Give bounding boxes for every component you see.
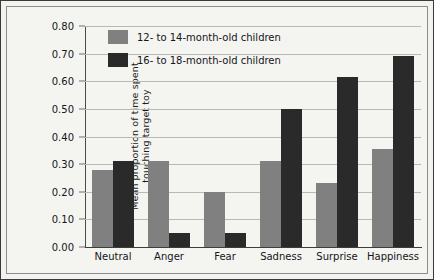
x-axis-tick-label-neutral: Neutral (95, 251, 132, 262)
bar-fear-series-0 (204, 192, 225, 247)
y-axis-tick-label: 0.50 (28, 103, 74, 114)
y-axis-tick-mark (79, 26, 85, 27)
bar-happiness-series-0 (372, 149, 393, 247)
bar-group (309, 26, 365, 247)
y-axis-tick-mark (79, 247, 85, 248)
bar-surprise-series-0 (316, 183, 337, 247)
y-axis-tick-label: 0.10 (28, 214, 74, 225)
x-axis-tick-label-surprise: Surprise (316, 251, 357, 262)
y-axis-tick-mark (79, 164, 85, 165)
legend-swatch-icon-series-0 (108, 30, 128, 44)
y-axis-tick-label: 0.30 (28, 159, 74, 170)
chart-figure: Mean proportion of time spent touching t… (0, 0, 434, 280)
y-axis-tick-mark (79, 191, 85, 192)
y-axis-tick-label: 0.40 (28, 131, 74, 142)
bar-happiness-series-1 (393, 56, 414, 247)
legend-label-series-0: 12- to 14-month-old children (137, 32, 281, 43)
bar-neutral-series-1 (113, 161, 134, 247)
bar-group (365, 26, 421, 247)
legend-label-series-1: 16- to 18-month-old children (137, 55, 281, 66)
bar-sadness-series-0 (260, 161, 281, 247)
y-axis-tick-mark (79, 136, 85, 137)
y-axis-tick-label: 0.00 (28, 242, 74, 253)
y-axis-tick-label: 0.60 (28, 76, 74, 87)
y-axis-tick-label: 0.80 (28, 21, 74, 32)
bar-surprise-series-1 (337, 77, 358, 247)
legend-swatch-icon-series-1 (108, 53, 128, 67)
y-axis-tick-label: 0.70 (28, 48, 74, 59)
chart-legend: 12- to 14-month-old children 16- to 18-m… (108, 30, 281, 76)
x-axis-tick-label-sadness: Sadness (260, 251, 302, 262)
bar-anger-series-0 (148, 161, 169, 247)
bar-fear-series-1 (225, 233, 246, 247)
x-axis-line (85, 247, 422, 248)
legend-item-1: 16- to 18-month-old children (108, 53, 281, 67)
y-axis-tick-mark (79, 219, 85, 220)
y-axis-tick-label: 0.20 (28, 186, 74, 197)
x-axis-tick-label-fear: Fear (214, 251, 236, 262)
y-axis-tick-mark (79, 108, 85, 109)
x-axis-tick-label-anger: Anger (154, 251, 184, 262)
bar-neutral-series-0 (92, 170, 113, 247)
legend-item-0: 12- to 14-month-old children (108, 30, 281, 44)
y-axis-tick-mark (79, 53, 85, 54)
y-axis-tick-mark (79, 81, 85, 82)
bar-anger-series-1 (169, 233, 190, 247)
x-axis-tick-label-happiness: Happiness (367, 251, 419, 262)
bar-sadness-series-1 (281, 109, 302, 247)
